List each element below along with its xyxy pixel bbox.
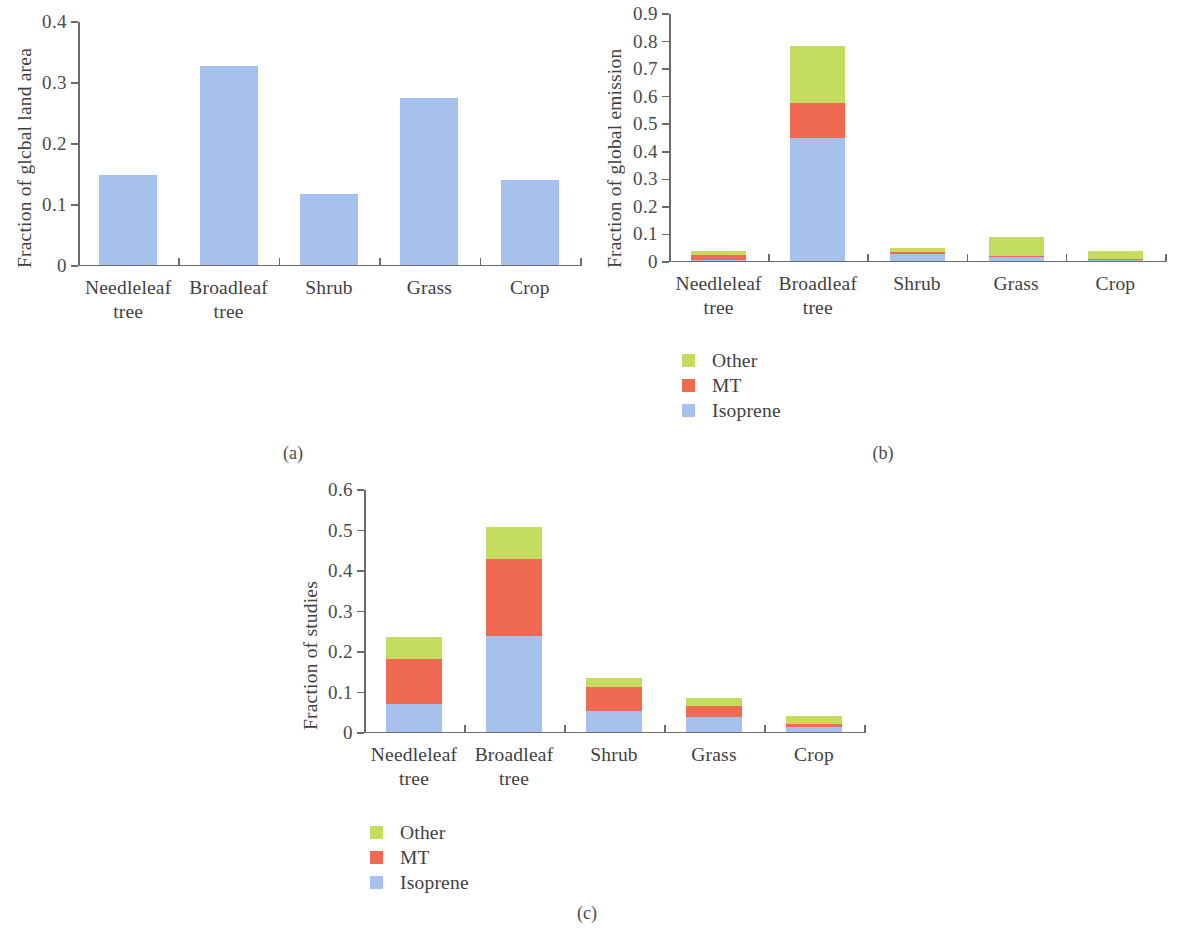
bar-segment-isoprene bbox=[890, 254, 945, 260]
x-axis-tick bbox=[764, 725, 766, 733]
figure-root: Fraction of glcbal land area 00.10.20.30… bbox=[0, 0, 1178, 936]
bar-shrub bbox=[890, 248, 945, 261]
y-axis-tick-label: 0.9 bbox=[633, 3, 658, 25]
legend-label: Other bbox=[400, 822, 445, 844]
panel-c-plot-area: 00.10.20.30.40.50.6 bbox=[364, 490, 864, 733]
y-axis-tick bbox=[71, 204, 78, 206]
bar-slot bbox=[768, 14, 867, 261]
legend-swatch-icon bbox=[682, 404, 695, 417]
bar-segment-other bbox=[386, 637, 442, 660]
x-axis-label-line: Shrub bbox=[867, 272, 966, 296]
bar-grass bbox=[989, 237, 1044, 261]
y-axis-tick-label: 0.2 bbox=[328, 641, 353, 663]
x-axis-tick bbox=[379, 258, 381, 266]
x-axis-tick bbox=[864, 725, 866, 733]
panel-b: Fraction of global emission 00.10.20.30.… bbox=[592, 0, 1178, 320]
bar-slot bbox=[867, 14, 966, 261]
bar-segment-mt bbox=[486, 559, 542, 636]
y-axis-tick bbox=[71, 143, 78, 145]
x-axis-tick bbox=[867, 254, 869, 262]
x-axis-tick bbox=[1165, 254, 1167, 262]
x-axis-label: Broadleaftree bbox=[768, 272, 867, 320]
bar-segment bbox=[99, 175, 157, 264]
x-axis-label-line: Shrub bbox=[279, 276, 379, 300]
caption-c: (c) bbox=[557, 903, 617, 924]
panel-c-y-axis-title: Fraction of studies bbox=[300, 520, 322, 730]
y-axis-tick bbox=[662, 13, 669, 15]
bar-segment-isoprene bbox=[1088, 260, 1143, 261]
bar-broadleaf-tree bbox=[486, 527, 542, 732]
bar-slot bbox=[364, 490, 464, 732]
bar-segment-other bbox=[486, 527, 542, 559]
bar-slot bbox=[1066, 14, 1165, 261]
bar-segment-isoprene bbox=[790, 138, 845, 261]
y-axis-tick-label: 0.1 bbox=[328, 682, 353, 704]
legend-swatch-icon bbox=[370, 851, 383, 864]
panel-a-x-axis bbox=[78, 265, 580, 267]
x-axis-label-line: Crop bbox=[1066, 272, 1165, 296]
x-axis-label-line: Crop bbox=[764, 743, 864, 767]
x-axis-tick bbox=[967, 254, 969, 262]
x-axis-tick bbox=[664, 725, 666, 733]
panel-a-y-axis-title: Fraction of glcbal land area bbox=[14, 18, 36, 268]
legend-item-isoprene[interactable]: Isoprene bbox=[370, 870, 469, 895]
y-axis-tick-label: 0.2 bbox=[42, 133, 67, 155]
bar-crop bbox=[786, 716, 842, 732]
y-axis-tick-label: 0.1 bbox=[633, 223, 658, 245]
legend-item-other[interactable]: Other bbox=[682, 348, 781, 373]
x-axis-tick bbox=[669, 254, 671, 262]
x-axis-label-line: Needleleaf bbox=[364, 743, 464, 767]
bar-segment-other bbox=[1088, 251, 1143, 259]
y-axis-tick bbox=[662, 206, 669, 208]
bar-segment-isoprene bbox=[686, 717, 742, 731]
y-axis-tick-label: 0.8 bbox=[633, 31, 658, 53]
bar-segment-isoprene bbox=[586, 711, 642, 731]
y-axis-tick bbox=[662, 261, 669, 263]
bar-segment bbox=[200, 66, 258, 264]
x-axis-tick bbox=[768, 254, 770, 262]
x-axis-label-line: tree bbox=[669, 296, 768, 320]
x-axis-label-line: tree bbox=[768, 296, 867, 320]
y-axis-tick-label: 0 bbox=[343, 722, 353, 744]
legend-item-mt[interactable]: MT bbox=[682, 373, 781, 398]
panel-c-bars bbox=[364, 490, 864, 732]
x-axis-label-line: Grass bbox=[967, 272, 1066, 296]
y-axis-tick bbox=[357, 651, 364, 653]
panel-b-x-axis bbox=[669, 261, 1165, 263]
y-axis-tick bbox=[357, 692, 364, 694]
legend-item-isoprene[interactable]: Isoprene bbox=[682, 398, 781, 423]
panel-b-plot-area: 00.10.20.30.40.50.60.70.80.9 bbox=[669, 14, 1165, 262]
bar-slot bbox=[564, 490, 664, 732]
y-axis-tick-label: 0 bbox=[648, 251, 658, 273]
x-axis-label-line: Broadleaf bbox=[464, 743, 564, 767]
x-axis-tick bbox=[464, 725, 466, 733]
y-axis-tick bbox=[662, 123, 669, 125]
legend-swatch-icon bbox=[682, 379, 695, 392]
legend-item-other[interactable]: Other bbox=[370, 820, 469, 845]
panel-b-y-axis-title: Fraction of global emission bbox=[604, 10, 626, 268]
x-axis-label: Shrub bbox=[279, 276, 379, 324]
legend-item-mt[interactable]: MT bbox=[370, 845, 469, 870]
bar-segment bbox=[400, 98, 458, 265]
x-axis-tick bbox=[1066, 254, 1068, 262]
bar-segment-other bbox=[786, 716, 842, 724]
bar-crop bbox=[1088, 251, 1143, 260]
bar-segment-other bbox=[989, 237, 1044, 257]
y-axis-tick-label: 0.5 bbox=[328, 520, 353, 542]
y-axis-tick-label: 0.3 bbox=[633, 168, 658, 190]
bar-segment-mt bbox=[386, 659, 442, 704]
bar-slot bbox=[78, 22, 178, 265]
y-axis-tick bbox=[662, 151, 669, 153]
bar-shrub bbox=[586, 678, 642, 731]
y-axis-tick-label: 0.5 bbox=[633, 113, 658, 135]
x-axis-label-line: Needleleaf bbox=[669, 272, 768, 296]
y-axis-tick-label: 0.6 bbox=[633, 86, 658, 108]
legend-label: Isoprene bbox=[712, 400, 781, 422]
panel-a-bars bbox=[78, 22, 580, 265]
panel-b-bars bbox=[669, 14, 1165, 261]
panel-c-legend: OtherMTIsoprene bbox=[370, 820, 469, 895]
bar-crop bbox=[501, 180, 559, 264]
bar-slot bbox=[764, 490, 864, 732]
x-axis-tick bbox=[78, 258, 80, 266]
x-axis-label: Crop bbox=[480, 276, 580, 324]
